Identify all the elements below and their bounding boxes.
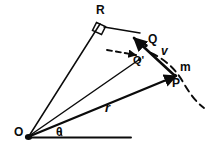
label-theta: θ <box>56 126 63 138</box>
label-R: R <box>96 4 105 16</box>
label-Q: Q <box>148 33 157 45</box>
label-origin: O <box>14 126 23 138</box>
diagram-canvas <box>0 0 221 153</box>
tangent-dashed-arrow <box>107 50 136 55</box>
segment-R-to-Q <box>104 27 140 33</box>
label-radius: r <box>105 101 110 114</box>
label-Q-prime: Q' <box>133 55 144 66</box>
label-mass: m <box>180 61 191 73</box>
label-velocity: v <box>161 45 168 57</box>
label-P: P <box>172 77 180 89</box>
segment-O-R <box>29 24 100 136</box>
geometry-diagram: R Q v Q' m P r O θ <box>0 0 221 153</box>
